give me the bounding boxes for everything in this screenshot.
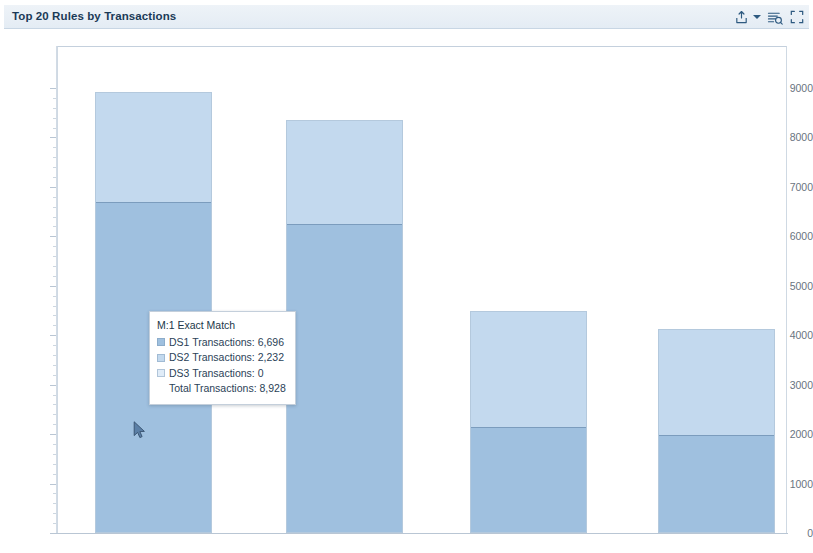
tooltip-row: DS1 Transactions: 6,696	[157, 335, 288, 351]
bar-4[interactable]	[658, 329, 775, 533]
page-title: Top 20 Rules by Transactions	[12, 10, 176, 22]
tooltip-color-swatch	[157, 338, 165, 346]
bar-segment-ds2[interactable]	[286, 120, 403, 224]
tooltip-row-label: DS1 Transactions: 6,696	[169, 335, 284, 351]
y-axis-minor-tick	[53, 167, 56, 168]
y-axis-tick-label: 6000	[765, 231, 813, 241]
y-axis-minor-tick	[53, 355, 56, 356]
tooltip-row: DS2 Transactions: 2,232	[157, 350, 288, 366]
tooltip-rows: DS1 Transactions: 6,696DS2 Transactions:…	[157, 335, 288, 397]
y-axis-minor-tick	[53, 118, 56, 119]
bar-segment-ds1[interactable]	[286, 224, 403, 533]
widget-header: Top 20 Rules by Transactions	[4, 5, 809, 29]
y-axis-minor-tick	[53, 217, 56, 218]
y-axis-minor-tick	[53, 157, 56, 158]
y-axis-tick-mark	[50, 187, 56, 188]
bar-segment-ds2[interactable]	[470, 311, 587, 426]
bar-2[interactable]	[286, 120, 403, 533]
tooltip-row: Total Transactions: 8,928	[157, 381, 288, 397]
y-axis-tick-label: 7000	[765, 182, 813, 192]
y-axis-minor-tick	[53, 306, 56, 307]
tooltip-row-label: DS3 Transactions: 0	[169, 366, 264, 382]
y-axis-minor-tick	[53, 256, 56, 257]
bar-segment-ds2[interactable]	[658, 329, 775, 435]
legend-toggle-icon[interactable]	[766, 9, 783, 26]
y-axis-minor-tick	[53, 98, 56, 99]
y-axis-minor-tick	[53, 474, 56, 475]
y-axis-tick-label: 5000	[765, 281, 813, 291]
y-axis-minor-tick	[53, 444, 56, 445]
y-axis-minor-tick	[53, 454, 56, 455]
y-axis-tick-mark	[50, 533, 56, 534]
y-axis-minor-tick	[53, 266, 56, 267]
y-axis-minor-tick	[53, 197, 56, 198]
y-axis-minor-tick	[53, 395, 56, 396]
y-axis-minor-tick	[53, 276, 56, 277]
export-icon[interactable]	[733, 9, 750, 26]
tooltip-row: DS3 Transactions: 0	[157, 366, 288, 382]
export-dropdown-caret[interactable]	[753, 15, 761, 19]
y-axis-minor-tick	[53, 523, 56, 524]
bar-segment-ds1[interactable]	[658, 435, 775, 533]
y-axis-minor-tick	[53, 177, 56, 178]
bar-segment-ds1[interactable]	[470, 427, 587, 533]
y-axis-tick-mark	[50, 335, 56, 336]
y-axis-tick-label: 9000	[765, 83, 813, 93]
y-axis-tick-mark	[50, 484, 56, 485]
y-axis-minor-tick	[53, 464, 56, 465]
y-axis-tick-mark	[50, 385, 56, 386]
y-axis-tick-label: 8000	[765, 132, 813, 142]
y-axis-minor-tick	[53, 503, 56, 504]
tooltip-row-label: DS2 Transactions: 2,232	[169, 350, 284, 366]
tooltip-title: M:1 Exact Match	[157, 318, 288, 334]
y-axis-minor-tick	[53, 365, 56, 366]
tooltip-row-label: Total Transactions: 8,928	[169, 381, 286, 397]
y-axis-minor-tick	[53, 128, 56, 129]
chart-tooltip: M:1 Exact Match DS1 Transactions: 6,696D…	[149, 311, 296, 405]
y-axis-minor-tick	[53, 493, 56, 494]
y-axis-tick-mark	[50, 88, 56, 89]
y-axis-minor-tick	[53, 345, 56, 346]
bar-3[interactable]	[470, 311, 587, 533]
y-axis-minor-tick	[53, 404, 56, 405]
tooltip-color-swatch	[157, 354, 165, 362]
fullscreen-icon[interactable]	[788, 9, 805, 26]
y-axis-minor-tick	[53, 513, 56, 514]
y-axis-minor-tick	[53, 325, 56, 326]
tooltip-color-swatch	[157, 369, 165, 377]
y-axis-tick-mark	[50, 236, 56, 237]
mouse-cursor-icon	[133, 421, 147, 440]
y-axis-minor-tick	[53, 424, 56, 425]
y-axis-line	[56, 46, 57, 534]
y-axis-tick-mark	[50, 286, 56, 287]
y-axis-minor-tick	[53, 207, 56, 208]
bar-segment-ds2[interactable]	[95, 92, 212, 202]
y-axis-minor-tick	[53, 147, 56, 148]
y-axis-minor-tick	[53, 246, 56, 247]
y-axis-minor-tick	[53, 296, 56, 297]
y-axis-minor-tick	[53, 226, 56, 227]
y-axis-tick-mark	[50, 434, 56, 435]
y-axis-minor-tick	[53, 375, 56, 376]
y-axis-minor-tick	[53, 315, 56, 316]
chart-widget: Top 20 Rules by Transactions	[0, 0, 813, 553]
y-axis-tick-mark	[50, 137, 56, 138]
widget-toolbar	[733, 7, 805, 27]
y-axis-minor-tick	[53, 108, 56, 109]
y-axis-minor-tick	[53, 414, 56, 415]
x-axis-line	[56, 533, 788, 534]
